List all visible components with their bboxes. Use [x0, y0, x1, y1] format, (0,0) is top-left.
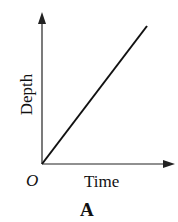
x-axis-arrow-icon — [163, 160, 175, 168]
y-axis-arrow-icon — [38, 12, 46, 24]
x-axis — [42, 160, 175, 168]
origin-label: O — [26, 172, 38, 189]
chart-caption: A — [80, 200, 94, 219]
x-axis-label: Time — [84, 173, 119, 190]
y-axis-label: Depth — [18, 65, 35, 125]
data-line — [42, 26, 147, 164]
y-axis — [38, 12, 46, 164]
